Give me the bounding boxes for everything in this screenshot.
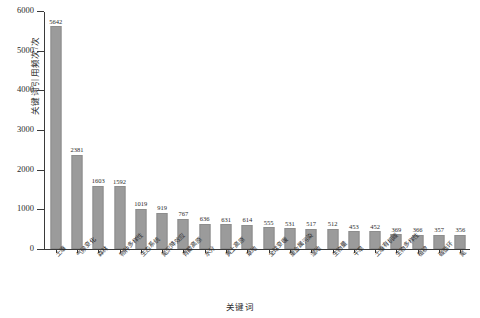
bar-value-label: 452 xyxy=(370,223,380,230)
bar-value-label: 1592 xyxy=(113,178,126,185)
bar-slot: 531 xyxy=(279,12,300,249)
bar-value-label: 1019 xyxy=(134,200,147,207)
bar[interactable] xyxy=(50,26,61,249)
bar-slot: 356 xyxy=(450,12,471,249)
bar-value-label: 614 xyxy=(242,216,252,223)
bar-value-label: 453 xyxy=(349,223,359,230)
y-tick-label: 3000 xyxy=(17,124,34,134)
bar-slot: 1592 xyxy=(109,12,130,249)
bar-slot: 1603 xyxy=(88,12,109,249)
y-tick-label: 1000 xyxy=(17,203,34,213)
y-tick-label: 2000 xyxy=(17,164,34,174)
bar-value-label: 531 xyxy=(285,220,295,227)
bar-slot: 631 xyxy=(215,12,236,249)
bar-value-label: 512 xyxy=(328,220,338,227)
bar-slot: 2381 xyxy=(66,12,87,249)
y-tick-label: 0 xyxy=(30,243,34,253)
bar-slot: 453 xyxy=(343,12,364,249)
x-axis-title: 关键词 xyxy=(0,300,480,312)
bar-slot: 517 xyxy=(301,12,322,249)
bar-value-label: 2381 xyxy=(70,146,83,153)
y-tick: 1000 xyxy=(37,209,44,210)
bar-slot: 452 xyxy=(365,12,386,249)
bar-slot: 366 xyxy=(407,12,428,249)
y-tick: 4000 xyxy=(37,90,44,91)
bar-slot: 512 xyxy=(322,12,343,249)
bar[interactable] xyxy=(114,186,125,249)
bar-slot: 555 xyxy=(258,12,279,249)
bar[interactable] xyxy=(71,155,82,249)
bar-slot: 369 xyxy=(386,12,407,249)
bar-value-label: 517 xyxy=(306,220,316,227)
bar-value-label: 631 xyxy=(221,216,231,223)
bar-slot: 357 xyxy=(428,12,449,249)
x-axis-tick-labels: 土壤气候变化森林物种多样性生态系统氮沉降效应青藏高原水分黄土高原草地全球变暖重金… xyxy=(44,252,470,298)
bar-value-label: 5642 xyxy=(49,18,62,25)
y-tick-label: 4000 xyxy=(17,84,34,94)
y-tick-label: 5000 xyxy=(17,45,34,55)
y-tick: 6000 xyxy=(37,11,44,12)
bar-value-label: 919 xyxy=(157,204,167,211)
bar-chart: 关键词引用频次/次 0100020003000400050006000 5642… xyxy=(0,0,480,318)
bar-value-label: 767 xyxy=(179,210,189,217)
bar-series: 5642238116031592101991976763663161455553… xyxy=(45,12,470,249)
bar-slot: 767 xyxy=(173,12,194,249)
bar-value-label: 357 xyxy=(434,226,444,233)
bar-value-label: 356 xyxy=(455,226,465,233)
bar-slot: 636 xyxy=(194,12,215,249)
bar-slot: 919 xyxy=(152,12,173,249)
bar-value-label: 1603 xyxy=(92,177,105,184)
y-tick: 5000 xyxy=(37,51,44,52)
bar-slot: 5642 xyxy=(45,12,66,249)
bar-slot: 1019 xyxy=(130,12,151,249)
y-tick: 3000 xyxy=(37,130,44,131)
bar-slot: 614 xyxy=(237,12,258,249)
bar-value-label: 555 xyxy=(264,219,274,226)
y-tick: 2000 xyxy=(37,170,44,171)
y-tick: 0 xyxy=(37,249,44,250)
plot-area: 0100020003000400050006000 56422381160315… xyxy=(44,12,470,250)
bar-value-label: 636 xyxy=(200,215,210,222)
y-tick-label: 6000 xyxy=(17,5,34,15)
